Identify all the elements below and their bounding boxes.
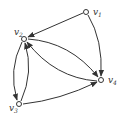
edge-v3-v2	[21, 43, 29, 101]
node-v3	[17, 102, 22, 107]
label-v4: v4	[108, 75, 117, 86]
edge-v1-v2	[28, 13, 83, 37]
edge-v1-v4	[88, 15, 101, 76]
edge-v3-v4	[23, 82, 97, 104]
node-v1	[84, 10, 89, 15]
edge-v2-v4	[28, 39, 98, 77]
node-v4	[99, 78, 104, 83]
label-v2: v2	[14, 27, 23, 38]
label-v1: v1	[93, 7, 102, 18]
edge-v2-v3	[13, 42, 22, 100]
directed-graph-diagram: v1 v2 v3 v4	[0, 0, 122, 120]
